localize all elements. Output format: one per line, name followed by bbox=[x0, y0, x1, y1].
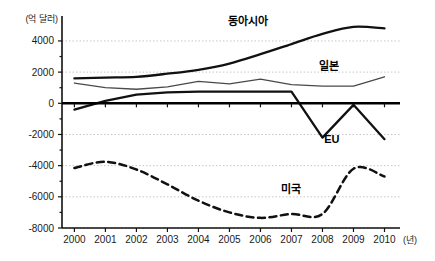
axes bbox=[58, 16, 400, 232]
x-tick-label: 2001 bbox=[94, 234, 117, 245]
x-tick-label: 2004 bbox=[187, 234, 210, 245]
series-label-2: EU bbox=[324, 133, 339, 145]
y-axis-tick-labels: 400020000-2000-4000-6000-8000 bbox=[28, 35, 54, 233]
x-axis-unit-label: (년) bbox=[403, 235, 417, 245]
x-tick-label: 2007 bbox=[280, 234, 303, 245]
y-tick-label: -6000 bbox=[28, 191, 54, 202]
y-tick-label: -2000 bbox=[28, 129, 54, 140]
series-line-2 bbox=[74, 92, 384, 140]
y-tick-label: 2000 bbox=[32, 67, 55, 78]
y-tick-label: -4000 bbox=[28, 160, 54, 171]
x-tick-label: 2002 bbox=[125, 234, 148, 245]
x-tick-label: 2000 bbox=[63, 234, 86, 245]
series-label-0: 동아시아 bbox=[228, 14, 269, 27]
series-line-3 bbox=[74, 162, 384, 218]
x-tick-label: 2008 bbox=[311, 234, 334, 245]
series-lines bbox=[74, 27, 384, 218]
line-chart: 400020000-2000-4000-6000-8000 2000200120… bbox=[0, 0, 435, 261]
series-label-1: 일본 bbox=[319, 59, 339, 72]
x-tick-label: 2009 bbox=[342, 234, 365, 245]
x-tick-label: 2010 bbox=[373, 234, 396, 245]
x-tick-label: 2005 bbox=[218, 234, 241, 245]
series-label-3: 미국 bbox=[281, 182, 301, 195]
series-line-1 bbox=[74, 77, 384, 89]
y-tick-label: 0 bbox=[48, 98, 54, 109]
y-axis-unit-label: (억 달러) bbox=[26, 13, 59, 24]
x-tick-label: 2006 bbox=[249, 234, 272, 245]
y-tick-label: 4000 bbox=[32, 35, 55, 46]
gridlines bbox=[62, 41, 400, 228]
y-tick-label: -8000 bbox=[28, 223, 54, 234]
x-tick-label: 2003 bbox=[156, 234, 179, 245]
chart-container: 400020000-2000-4000-6000-8000 2000200120… bbox=[0, 0, 435, 261]
x-axis-tick-labels: 2000200120022003200420052006200720082009… bbox=[63, 234, 396, 245]
